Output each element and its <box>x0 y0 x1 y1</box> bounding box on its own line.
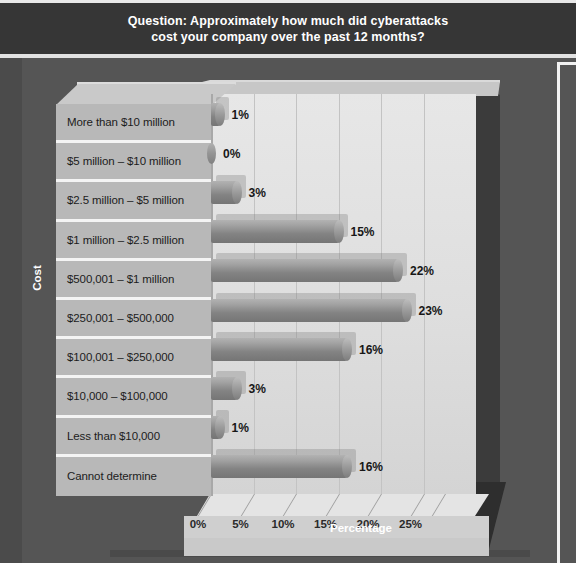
bar[interactable] <box>207 143 216 164</box>
category-label: $500,001 – $1 million <box>67 273 174 285</box>
category-row: $100,001 – $250,000 <box>56 339 211 378</box>
chart-screenshot: Question: Approximately how much did cyb… <box>0 0 576 563</box>
bar-end-cap <box>215 103 225 126</box>
category-label: $5 million – $10 million <box>67 155 181 167</box>
bar[interactable] <box>211 416 220 439</box>
category-label: Cannot determine <box>67 470 157 482</box>
category-row: $5 million – $10 million <box>56 143 211 182</box>
bar-value-label: 1% <box>232 108 249 122</box>
bar[interactable] <box>211 299 407 322</box>
bar-value-label: 15% <box>351 225 375 239</box>
x-tick-label: 25% <box>399 518 422 530</box>
category-row: Less than $10,000 <box>56 418 211 457</box>
x-tick-label: 10% <box>271 518 294 530</box>
category-label-panel: More than $10 million$5 million – $10 mi… <box>56 104 211 496</box>
bar-end-cap <box>215 416 225 439</box>
category-label: Less than $10,000 <box>67 430 160 442</box>
category-label: More than $10 million <box>67 116 175 128</box>
bar[interactable] <box>211 259 398 282</box>
category-row: $10,000 – $100,000 <box>56 378 211 417</box>
category-row: $1 million – $2.5 million <box>56 222 211 261</box>
chart-title-band: Question: Approximately how much did cyb… <box>0 0 576 58</box>
category-row: $250,001 – $500,000 <box>56 300 211 339</box>
bar-end-cap <box>402 299 412 322</box>
category-label: $100,001 – $250,000 <box>67 351 174 363</box>
gridline <box>424 94 425 494</box>
y-axis-title: Cost <box>31 265 43 291</box>
page-title: Question: Approximately how much did cyb… <box>128 13 448 45</box>
bar[interactable] <box>211 181 237 204</box>
x-axis-strip-lower <box>184 538 489 556</box>
bar-value-label: 0% <box>223 147 240 161</box>
bar[interactable] <box>211 455 347 478</box>
bar[interactable] <box>211 103 220 126</box>
bar-end-cap <box>342 338 352 361</box>
category-panel-bevel <box>56 84 236 105</box>
category-row: $2.5 million – $5 million <box>56 182 211 221</box>
x-tick-label: 0% <box>190 518 207 530</box>
bar-end-cap <box>334 220 344 243</box>
top-right-border-rule <box>557 62 576 65</box>
category-label: $2.5 million – $5 million <box>67 194 184 206</box>
bar-value-label: 16% <box>359 460 383 474</box>
bar-value-label: 3% <box>249 382 266 396</box>
right-border-rule <box>557 62 560 563</box>
category-label: $1 million – $2.5 million <box>67 234 184 246</box>
category-row: $500,001 – $1 million <box>56 261 211 300</box>
bar-value-label: 23% <box>419 304 443 318</box>
chart-area: 0%5%10%15%20%25% More than $10 million$5… <box>22 62 538 542</box>
bar-end-cap <box>232 377 242 400</box>
bar-value-label: 3% <box>249 186 266 200</box>
category-row: More than $10 million <box>56 104 211 143</box>
plot-side-wall <box>474 82 500 502</box>
x-axis-title: Percentage <box>330 522 392 534</box>
plot-floor <box>197 494 489 516</box>
bar-value-label: 22% <box>410 264 434 278</box>
bar-end-cap <box>232 181 242 204</box>
bar[interactable] <box>211 220 339 243</box>
bar-value-label: 16% <box>359 343 383 357</box>
left-gutter <box>0 58 22 563</box>
category-row: Cannot determine <box>56 457 211 496</box>
category-label: $250,001 – $500,000 <box>67 312 174 324</box>
bar[interactable] <box>211 338 347 361</box>
bar[interactable] <box>211 377 237 400</box>
x-tick-label: 5% <box>232 518 249 530</box>
category-label: $10,000 – $100,000 <box>67 390 168 402</box>
bar-value-label: 1% <box>232 421 249 435</box>
